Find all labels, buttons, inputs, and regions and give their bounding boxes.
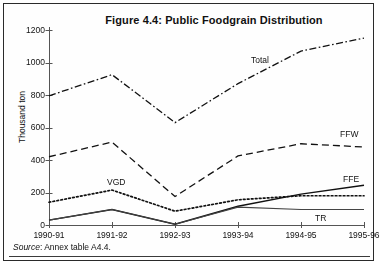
figure-frame: Figure 4.4: Public Foodgrain Distributio…	[3, 3, 374, 261]
x-axis-tick-label: 1993-94	[210, 231, 266, 240]
series-label-tr: TR	[315, 214, 326, 223]
x-axis-tick-label: 1990-91	[21, 231, 77, 240]
series-label-ffw: FFW	[340, 130, 358, 139]
y-axis-tick-label: 0	[15, 221, 45, 230]
x-axis-tick-label: 1995-96	[336, 231, 381, 240]
y-axis-tick-label: 800	[15, 91, 45, 100]
line-chart-plot	[4, 4, 375, 262]
y-axis-tick-label: 1000	[15, 58, 45, 67]
series-label-total: Total	[251, 56, 269, 65]
series-label-ffe: FFE	[343, 175, 359, 184]
x-axis-tick-label: 1994-95	[273, 231, 329, 240]
y-axis-tick-label: 400	[15, 156, 45, 165]
x-axis-tick-label: 1991-92	[84, 231, 140, 240]
x-axis-tick-label: 1992-93	[147, 231, 203, 240]
source-note: Source: Annex table A4.4.	[13, 242, 111, 252]
source-prefix: Source	[13, 242, 40, 252]
series-label-vgd: VGD	[107, 178, 125, 187]
y-axis-tick-label: 600	[15, 123, 45, 132]
source-text: : Annex table A4.4.	[40, 242, 111, 252]
bottom-rule	[9, 256, 370, 257]
y-axis-tick-label: 1200	[15, 26, 45, 35]
y-axis-tick-label: 200	[15, 188, 45, 197]
